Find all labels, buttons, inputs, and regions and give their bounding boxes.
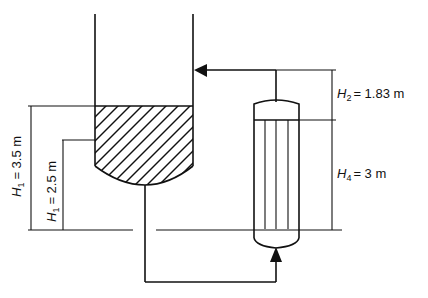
dimension-h1-low: H1= 2.5 m [44,140,95,230]
return-pipe [194,64,276,102]
dimension-h4: H4= 3 m [337,166,386,183]
exchanger-bottom-head [254,238,299,248]
process-diagram: H1= 3.5 m H1= 2.5 m H2= 1.83 m H4= 3 m [0,0,428,298]
return-arrow-icon [194,64,207,77]
dimension-h2: H2= 1.83 m [276,70,404,230]
svg-text:H1= 3.5 m: H1= 3.5 m [9,136,26,197]
svg-text:H1= 2.5 m: H1= 2.5 m [44,161,61,222]
heat-exchanger [254,100,299,248]
outlet-pipe [145,185,282,282]
svg-text:H4= 3 m: H4= 3 m [337,166,386,183]
exchanger-top-head [254,100,299,120]
svg-text:H2= 1.83 m: H2= 1.83 m [337,86,404,103]
inlet-arrow-icon [270,247,282,262]
